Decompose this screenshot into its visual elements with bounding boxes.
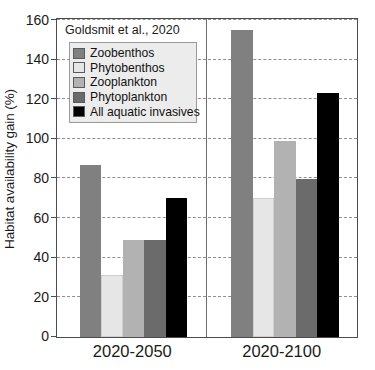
bar-zooplankton-2020-2050 bbox=[123, 240, 145, 337]
y-axis-label: Habitat availability gain (%) bbox=[0, 0, 18, 338]
legend-item-phytobenthos: Phytobenthos bbox=[73, 61, 192, 76]
y-axis-tick-mark bbox=[51, 336, 57, 337]
legend-swatch-icon bbox=[73, 92, 85, 103]
y-axis-tick-label: 0 bbox=[19, 329, 49, 343]
y-axis-tick-label: 160 bbox=[19, 13, 49, 27]
legend-swatch-icon bbox=[73, 77, 85, 88]
y-axis-tick-label: 40 bbox=[19, 250, 49, 264]
plot-area: Goldsmit et al., 2020 ZoobenthosPhytoben… bbox=[56, 18, 358, 338]
x-axis-tick-label: 2020-2050 bbox=[58, 342, 207, 361]
legend-item-label: Phytobenthos bbox=[90, 62, 165, 74]
legend-item-label: All aquatic invasives bbox=[90, 106, 200, 118]
y-axis-tick-label: 100 bbox=[19, 131, 49, 145]
source-annotation: Goldsmit et al., 2020 bbox=[65, 23, 180, 37]
y-axis-tick-labels: 020406080100120140160 bbox=[17, 0, 49, 370]
legend-swatch-icon bbox=[73, 106, 85, 117]
bar-phytoplankton-2020-2050 bbox=[144, 240, 166, 337]
y-axis-tick-mark bbox=[51, 257, 57, 258]
y-axis-tick-label: 80 bbox=[19, 171, 49, 185]
legend-swatch-icon bbox=[73, 48, 85, 59]
legend-item-zooplankton: Zooplankton bbox=[73, 75, 192, 90]
bar-zoobenthos-2020-2100 bbox=[231, 30, 253, 337]
legend-item-label: Zoobenthos bbox=[90, 47, 154, 59]
y-axis-tick-mark bbox=[51, 98, 57, 99]
legend-item-phytoplankton: Phytoplankton bbox=[73, 90, 192, 105]
y-axis-tick-mark bbox=[51, 19, 57, 20]
y-axis-tick-mark bbox=[51, 138, 57, 139]
bar-zooplankton-2020-2100 bbox=[274, 141, 296, 337]
legend-item-label: Phytoplankton bbox=[90, 91, 167, 103]
y-axis-tick-label: 140 bbox=[19, 52, 49, 66]
bar-all-aquatic-invasives-2020-2100 bbox=[317, 93, 339, 337]
bar-all-aquatic-invasives-2020-2050 bbox=[166, 198, 188, 337]
group-divider bbox=[206, 19, 207, 337]
y-axis-tick-label: 120 bbox=[19, 92, 49, 106]
legend-item-all-aquatic-invasives: All aquatic invasives bbox=[73, 104, 192, 119]
y-axis-tick-mark bbox=[51, 296, 57, 297]
bar-phytobenthos-2020-2050 bbox=[101, 275, 123, 337]
legend-item-label: Zooplankton bbox=[90, 76, 157, 88]
y-axis-tick-label: 60 bbox=[19, 211, 49, 225]
legend-swatch-icon bbox=[73, 62, 85, 73]
chart-figure: Habitat availability gain (%) 0204060801… bbox=[0, 0, 375, 370]
legend-item-zoobenthos: Zoobenthos bbox=[73, 46, 192, 61]
y-axis-tick-mark bbox=[51, 217, 57, 218]
bar-zoobenthos-2020-2050 bbox=[80, 165, 102, 337]
y-axis-tick-label: 20 bbox=[19, 290, 49, 304]
bar-phytoplankton-2020-2100 bbox=[296, 179, 318, 337]
y-axis-tick-mark bbox=[51, 59, 57, 60]
bar-phytobenthos-2020-2100 bbox=[253, 198, 275, 337]
x-axis-tick-label: 2020-2100 bbox=[207, 342, 356, 361]
chart-legend: ZoobenthosPhytobenthosZooplanktonPhytopl… bbox=[69, 42, 197, 123]
y-axis-tick-mark bbox=[51, 177, 57, 178]
